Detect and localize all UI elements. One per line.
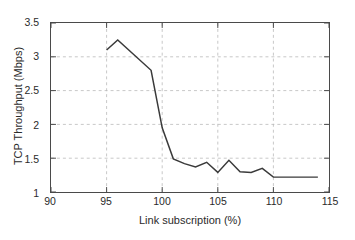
- plot-area: [50, 22, 330, 193]
- y-tick-label: 3.5: [24, 17, 45, 28]
- x-tick-label: 110: [266, 196, 283, 207]
- x-tick-label: 105: [209, 196, 227, 207]
- x-tick-label: 95: [100, 196, 112, 207]
- x-tick-label: 115: [322, 196, 339, 207]
- y-tick-label: 3: [33, 51, 45, 62]
- x-axis-title: Link subscription (%): [50, 214, 330, 226]
- y-axis-title: TCP Throughput (Mbps): [12, 26, 24, 186]
- y-tick-label: 2.5: [24, 85, 45, 96]
- chart-figure: 11.522.533.5 9095100105110115 Link subsc…: [0, 0, 355, 240]
- x-tick-label: 100: [153, 196, 171, 207]
- series-layer: [51, 23, 329, 192]
- x-tick-label: 90: [44, 196, 56, 207]
- y-axis-title-wrapper: TCP Throughput (Mbps): [0, 0, 1, 1]
- y-tick-label: 1.5: [24, 154, 45, 165]
- y-tick-label: 2: [33, 119, 45, 130]
- x-axis-tick-labels: 9095100105110115: [50, 196, 330, 212]
- tcp-throughput-line: [107, 40, 318, 177]
